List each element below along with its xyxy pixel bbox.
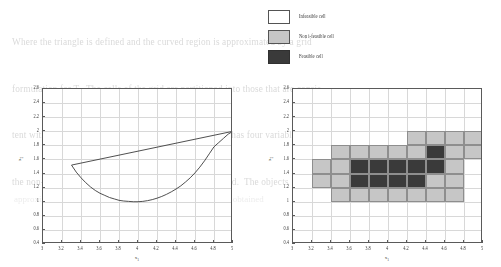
y-axis-tick: [42, 102, 45, 103]
y-axis-tick-label: 1.8: [22, 141, 39, 147]
y-axis-tick: [42, 243, 45, 244]
legend-swatch-non-i-feasible-icon: [268, 30, 290, 44]
x-axis-tick-label: 3.6: [91, 245, 107, 251]
legend-item-infeasible: Infeasible cell: [268, 8, 388, 25]
y-axis-tick: [42, 215, 45, 216]
grid-cell-non-i-feasible: [426, 131, 445, 145]
x-axis-tick: [99, 240, 100, 243]
y-axis-title-left: x2: [17, 157, 24, 161]
x-axis-tick-label: 5: [474, 245, 490, 251]
grid-cell-non-i-feasible: [331, 188, 350, 202]
y-axis-tick-label: 0.4: [272, 240, 289, 246]
bleed-through-text: Where the triangle is defined and the cu…: [12, 4, 492, 84]
y-axis-tick: [42, 116, 45, 117]
y-axis-tick: [42, 158, 45, 159]
curve-lower-parabola: [72, 131, 233, 201]
legend-item-non-i-feasible: Non i-feasible cell: [268, 28, 388, 45]
gridline-horizontal: [293, 103, 481, 104]
grid-cell-non-i-feasible: [464, 145, 482, 159]
y-axis-tick-label: 0.6: [22, 226, 39, 232]
y-axis-tick: [292, 144, 295, 145]
bleed-line: Where the triangle is defined and the cu…: [12, 35, 492, 51]
cell-type-legend: Infeasible cell Non i-feasible cell Feas…: [268, 8, 388, 68]
grid-cell-non-i-feasible: [369, 145, 388, 159]
y-axis-tick: [42, 130, 45, 131]
y-axis-tick-label: 1.6: [272, 155, 289, 161]
y-axis-tick: [292, 173, 295, 174]
x-axis-tick-label: 3: [34, 245, 50, 251]
grid-cell-non-i-feasible: [445, 145, 464, 159]
grid-cell-feasible: [388, 159, 407, 173]
x-axis-tick: [80, 240, 81, 243]
x-axis-tick: [175, 240, 176, 243]
y-axis-tick-label: 2.2: [22, 113, 39, 119]
x-axis-tick-label: 4.2: [398, 245, 414, 251]
legend-swatch-infeasible-icon: [268, 10, 290, 24]
x-axis-tick-label: 4: [129, 245, 145, 251]
legend-swatch-feasible-icon: [268, 50, 290, 64]
y-axis-tick: [292, 201, 295, 202]
x-axis-tick: [137, 240, 138, 243]
gridline-horizontal: [293, 216, 481, 217]
grid-cell-feasible: [388, 174, 407, 188]
gridline-horizontal: [293, 117, 481, 118]
x-axis-tick-label: 3.8: [110, 245, 126, 251]
x-axis-tick: [444, 240, 445, 243]
grid-cell-non-i-feasible: [312, 159, 331, 173]
y-axis-tick-label: 2: [22, 127, 39, 133]
x-axis-tick-label: 3.2: [303, 245, 319, 251]
x-axis-tick-label: 3.4: [322, 245, 338, 251]
grid-cell-feasible: [407, 159, 426, 173]
y-axis-tick-label: 1.8: [272, 141, 289, 147]
y-axis-tick-label: 2.6: [272, 85, 289, 91]
grid-cell-feasible: [407, 174, 426, 188]
gridline-horizontal: [293, 202, 481, 203]
y-axis-tick: [42, 88, 45, 89]
y-axis-tick-label: 1.2: [272, 184, 289, 190]
y-axis-tick: [292, 229, 295, 230]
y-axis-tick-label: 2.4: [22, 99, 39, 105]
x-axis-tick: [194, 240, 195, 243]
curve-overlay: [43, 89, 232, 243]
grid-cell-non-i-feasible: [331, 145, 350, 159]
gridline-vertical: [464, 89, 465, 242]
x-axis-tick: [368, 240, 369, 243]
y-axis-tick-label: 2.6: [22, 85, 39, 91]
legend-item-feasible: Feasible cell: [268, 48, 388, 65]
x-axis-tick-label: 3.8: [360, 245, 376, 251]
y-axis-tick-label: 0.8: [22, 212, 39, 218]
grid-cell-non-i-feasible: [426, 188, 445, 202]
grid-cell-non-i-feasible: [445, 188, 464, 202]
y-axis-tick-label: 1.2: [22, 184, 39, 190]
y-axis-tick-label: 0.4: [22, 240, 39, 246]
y-axis-tick-label: 0.6: [272, 226, 289, 232]
x-axis-tick-label: 4.6: [186, 245, 202, 251]
grid-cell-non-i-feasible: [407, 131, 426, 145]
y-axis-tick-label: 2.2: [272, 113, 289, 119]
x-axis-tick: [156, 240, 157, 243]
grid-cell-non-i-feasible: [350, 145, 369, 159]
x-axis-tick-label: 3.2: [53, 245, 69, 251]
y-axis-title-right: x2: [267, 157, 274, 161]
gridline-horizontal: [293, 230, 481, 231]
grid-cell-non-i-feasible: [312, 174, 331, 188]
x-axis-tick-label: 4.2: [148, 245, 164, 251]
grid-cell-non-i-feasible: [350, 188, 369, 202]
grid-cell-non-i-feasible: [445, 174, 464, 188]
y-axis-tick: [42, 201, 45, 202]
grid-cell-non-i-feasible: [331, 159, 350, 173]
plot-area-left: [42, 88, 232, 243]
grid-cell-non-i-feasible: [445, 131, 464, 145]
y-axis-tick: [292, 130, 295, 131]
x-axis-tick-label: 4: [379, 245, 395, 251]
legend-label-infeasible: Infeasible cell: [299, 13, 326, 19]
y-axis-tick-label: 1.4: [272, 169, 289, 175]
y-axis-tick: [292, 102, 295, 103]
grid-cell-feasible: [426, 145, 445, 159]
grid-cell-feasible: [350, 174, 369, 188]
grid-cell-feasible: [369, 159, 388, 173]
x-axis-tick: [463, 240, 464, 243]
legend-label-feasible: Feasible cell: [299, 53, 323, 59]
legend-label-non-i-feasible: Non i-feasible cell: [299, 33, 334, 39]
grid-cell-non-i-feasible: [426, 174, 445, 188]
